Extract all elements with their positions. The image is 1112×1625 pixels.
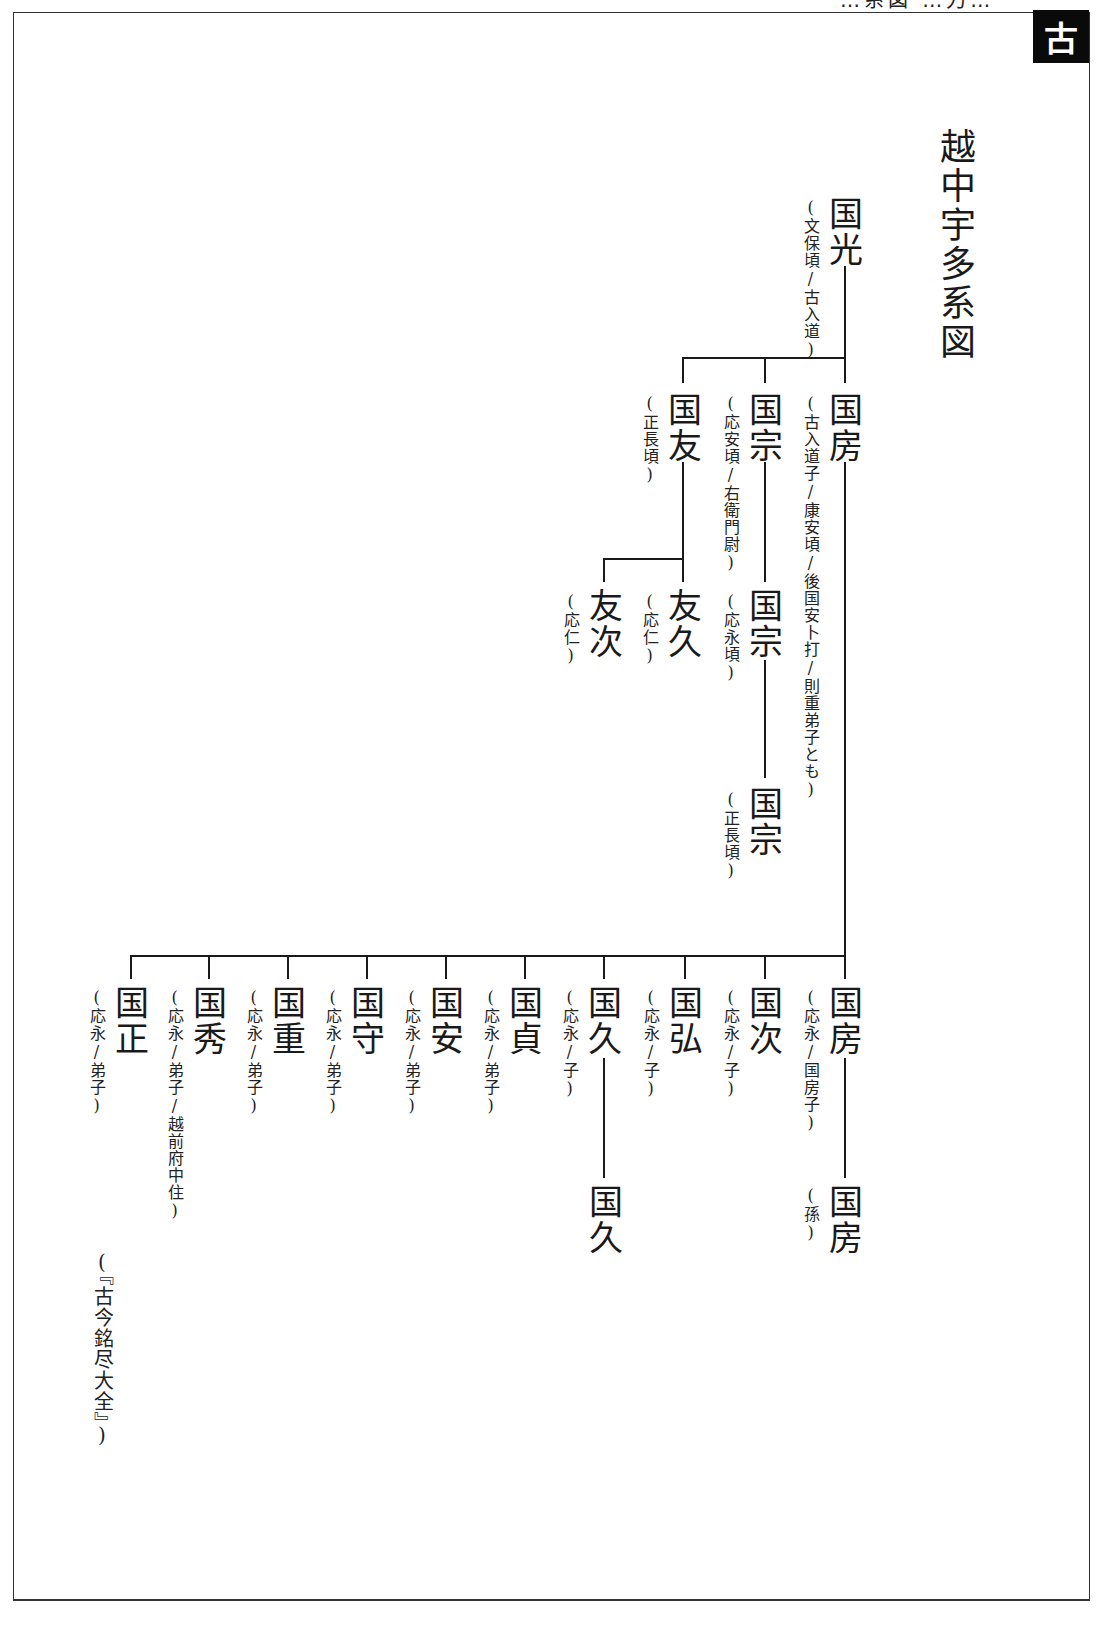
note-child: (応永/弟子) [482,988,498,1116]
note-child: (応永/弟子) [403,988,419,1116]
node-kunimitsu: 国光 [826,196,860,268]
connector [130,955,846,957]
node-kunihisa-son: 国久 [586,1184,620,1256]
connector [764,660,766,778]
note-kunimitsu: (文保頃/古入道) [802,198,818,360]
node-kunimune-3: 国宗 [746,786,780,858]
connector [603,1058,605,1178]
node-tomotsugu: 友次 [586,588,620,660]
node-tomohisa: 友久 [665,588,699,660]
node-kunifusa: 国房 [826,392,860,464]
note-kunifusa-grandson: (孫) [802,1186,818,1243]
connector [208,955,210,979]
node-child: 国弘 [666,985,700,1057]
chart-title: 越中宇多系図 [936,128,972,362]
connector [130,955,132,979]
note-tomohisa: (応仁) [641,592,657,666]
node-child: 国重 [269,985,303,1057]
node-child: 国正 [112,985,146,1057]
connector [764,955,766,979]
node-child: 国久 [585,985,619,1057]
connector [366,955,368,979]
connector [287,955,289,979]
note-kunimune-3: (正長頃) [722,790,738,881]
connector [844,357,846,383]
node-child: 国房 [826,985,860,1057]
page-frame [13,12,1090,1601]
connector [682,357,684,383]
note-kunifusa: (古入道子/康安頃/後国安卜打/則重弟子とも) [802,394,818,800]
node-kunitomo: 国友 [665,392,699,464]
connector [844,462,846,956]
connector [844,1058,846,1178]
section-tab: 古 [1033,10,1089,63]
connector [603,558,605,582]
connector [445,955,447,979]
note-child: (応永/弟子) [324,988,340,1116]
connector [844,955,846,979]
note-child: (応永/子) [642,988,658,1099]
note-kunimune-2: (応永頃) [722,592,738,683]
connector [603,955,605,979]
connector [682,462,684,582]
node-kunimune: 国宗 [746,392,780,464]
node-child: 国守 [348,985,382,1057]
note-child: (応永/国房子) [802,988,818,1133]
note-child: (応永/弟子/越前府中住) [166,988,182,1221]
connector [684,955,686,979]
connector [524,955,526,979]
node-child: 国次 [746,985,780,1057]
note-child: (応永/子) [722,988,738,1099]
node-kunifusa-grandson: 国房 [826,1184,860,1256]
source-citation: (『古今銘尽大全』) [92,1250,112,1448]
note-kunimune: (応安頃/右衛門尉) [722,394,738,573]
connector [844,266,846,358]
note-tomotsugu: (応仁) [562,592,578,666]
connector [603,558,684,560]
note-child: (応永/子) [561,988,577,1099]
note-child: (応永/弟子) [88,988,104,1116]
note-kunitomo: (正長頃) [641,394,657,485]
node-child: 国貞 [506,985,540,1057]
note-child: (応永/弟子) [245,988,261,1116]
node-kunimune-2: 国宗 [746,588,780,660]
connector [764,357,766,383]
node-child: 国秀 [190,985,224,1057]
connector [764,462,766,582]
node-child: 国安 [427,985,461,1057]
